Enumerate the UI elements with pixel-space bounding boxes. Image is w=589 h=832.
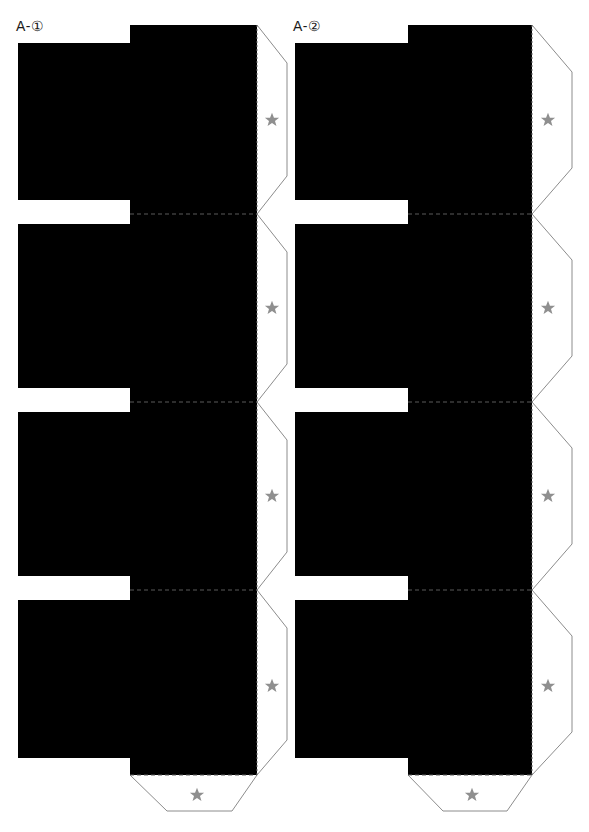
star-icon	[541, 489, 555, 502]
part-label-a2: A-②	[293, 18, 321, 34]
panel-1	[18, 25, 257, 214]
column-a2	[295, 25, 572, 811]
column-a1-panels	[18, 25, 257, 775]
star-icon	[265, 489, 279, 502]
panel-2	[18, 214, 257, 402]
column-a1	[18, 25, 287, 811]
part-label-a1: A-①	[16, 18, 44, 34]
star-icon	[541, 679, 555, 692]
panel-2	[295, 214, 532, 402]
panel-1	[295, 25, 532, 214]
star-icon	[190, 788, 204, 801]
template-artwork	[0, 0, 589, 832]
column-a1-side-flaps	[257, 25, 287, 775]
panel-3	[295, 402, 532, 590]
panel-4	[295, 590, 532, 775]
star-icon	[465, 788, 479, 801]
star-icon	[265, 679, 279, 692]
star-icon	[265, 301, 279, 314]
side-flap-4	[532, 590, 572, 775]
panel-3	[18, 402, 257, 590]
papercraft-sheet: A-① A-②	[0, 0, 589, 832]
star-icon	[265, 113, 279, 126]
column-a2-side-flaps	[532, 25, 572, 775]
column-a2-panels	[295, 25, 532, 775]
panel-4	[18, 590, 257, 775]
star-icon	[541, 113, 555, 126]
star-icon	[541, 301, 555, 314]
